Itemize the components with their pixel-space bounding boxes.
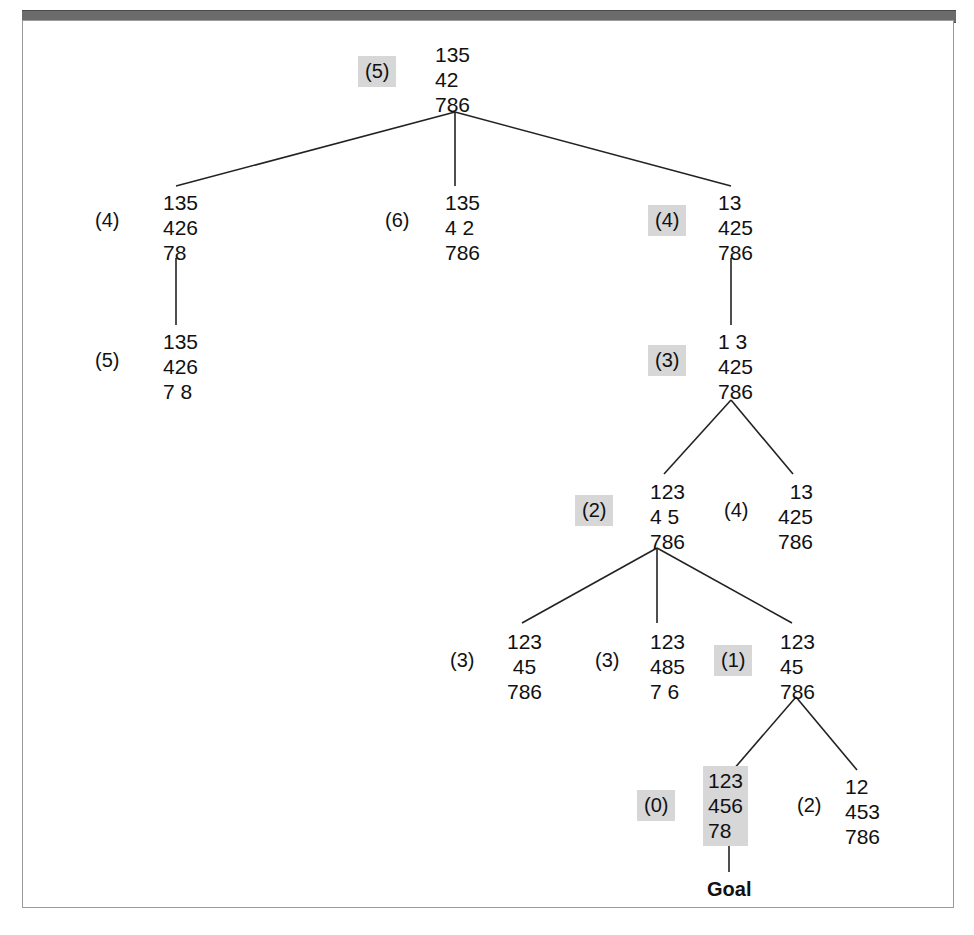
- node-cost-n8: (3): [443, 645, 481, 676]
- node-board-n12: 12453786: [840, 772, 885, 852]
- puzzle-board: 1354267 8: [158, 327, 203, 407]
- puzzle-board: 1234857 6: [645, 627, 690, 707]
- puzzle-row: 7 8: [163, 379, 198, 404]
- puzzle-board: 123 45786: [502, 627, 547, 707]
- puzzle-board: 13542786: [430, 40, 475, 120]
- node-board-n0: 13542786: [430, 40, 475, 120]
- node-cost-n10: (1): [714, 645, 752, 676]
- puzzle-row: 123: [650, 629, 685, 654]
- cost-label: (0): [637, 790, 675, 821]
- node-board-n1: 13542678: [158, 188, 203, 268]
- puzzle-board: 12453786: [840, 772, 885, 852]
- cost-label: (6): [378, 205, 416, 236]
- cost-label: (5): [88, 345, 126, 376]
- puzzle-row: 786: [507, 679, 542, 704]
- node-board-n6: 1234 5786: [645, 477, 690, 557]
- puzzle-row: 786: [650, 529, 685, 554]
- node-cost-n2: (6): [378, 205, 416, 236]
- puzzle-row: 123: [780, 629, 815, 654]
- puzzle-row: 425: [778, 504, 813, 529]
- puzzle-row: 786: [445, 240, 480, 265]
- puzzle-row: 135: [445, 190, 480, 215]
- cost-label: (4): [717, 495, 755, 526]
- puzzle-row: 123: [650, 479, 685, 504]
- puzzle-board: 13542678: [158, 188, 203, 268]
- tree-nodes-layer: (5)13542786(4)13542678(6)1354 2786(4)134…: [0, 0, 974, 935]
- node-cost-n12: (2): [790, 790, 828, 821]
- puzzle-row: 426: [163, 215, 198, 240]
- node-cost-n6: (2): [575, 495, 613, 526]
- cost-label: (1): [714, 645, 752, 676]
- puzzle-row: 13: [778, 479, 813, 504]
- puzzle-row: 42: [435, 67, 470, 92]
- puzzle-row: 425: [718, 354, 753, 379]
- node-board-n5: 1 3425786: [713, 327, 758, 407]
- node-board-n11: 12345678: [703, 766, 748, 846]
- puzzle-row: 4 5: [650, 504, 685, 529]
- cost-label: (3): [648, 345, 686, 376]
- puzzle-row: 12: [845, 774, 880, 799]
- node-board-n2: 1354 2786: [440, 188, 485, 268]
- cost-label: (2): [790, 790, 828, 821]
- puzzle-row: 786: [718, 240, 753, 265]
- puzzle-row: 786: [780, 679, 815, 704]
- puzzle-board: 1354 2786: [440, 188, 485, 268]
- node-board-n7: 13425786: [773, 477, 818, 557]
- puzzle-row: 425: [718, 215, 753, 240]
- node-cost-n7: (4): [717, 495, 755, 526]
- figure-page: (5)13542786(4)13542678(6)1354 2786(4)134…: [0, 0, 974, 935]
- cost-label: (4): [88, 205, 126, 236]
- cost-label: (3): [588, 645, 626, 676]
- cost-label: (3): [443, 645, 481, 676]
- node-board-n3: 13425786: [713, 188, 758, 268]
- node-cost-n3: (4): [648, 205, 686, 236]
- puzzle-board: 12345786: [775, 627, 820, 707]
- puzzle-board: 12345678: [703, 766, 748, 846]
- puzzle-row: 123: [507, 629, 542, 654]
- puzzle-row: 45: [507, 654, 542, 679]
- cost-label: (2): [575, 495, 613, 526]
- puzzle-row: 453: [845, 799, 880, 824]
- node-cost-n1: (4): [88, 205, 126, 236]
- puzzle-row: 786: [435, 92, 470, 117]
- node-cost-n11: (0): [637, 790, 675, 821]
- goal-label: Goal: [707, 878, 751, 901]
- puzzle-board: 13425786: [773, 477, 818, 557]
- node-cost-n4: (5): [88, 345, 126, 376]
- puzzle-board: 13425786: [713, 188, 758, 268]
- node-board-n10: 12345786: [775, 627, 820, 707]
- puzzle-row: 45: [780, 654, 815, 679]
- puzzle-row: 485: [650, 654, 685, 679]
- puzzle-board: 1234 5786: [645, 477, 690, 557]
- puzzle-row: 135: [435, 42, 470, 67]
- puzzle-row: 123: [708, 768, 743, 793]
- puzzle-row: 786: [718, 379, 753, 404]
- puzzle-row: 13: [718, 190, 753, 215]
- puzzle-row: 1 3: [718, 329, 753, 354]
- puzzle-row: 786: [778, 529, 813, 554]
- puzzle-row: 786: [845, 824, 880, 849]
- puzzle-row: 7 6: [650, 679, 685, 704]
- node-cost-n5: (3): [648, 345, 686, 376]
- puzzle-row: 135: [163, 190, 198, 215]
- puzzle-board: 1 3425786: [713, 327, 758, 407]
- puzzle-row: 4 2: [445, 215, 480, 240]
- puzzle-row: 456: [708, 793, 743, 818]
- node-cost-n0: (5): [358, 56, 396, 87]
- cost-label: (5): [358, 56, 396, 87]
- node-board-n9: 1234857 6: [645, 627, 690, 707]
- puzzle-row: 78: [708, 818, 743, 843]
- cost-label: (4): [648, 205, 686, 236]
- puzzle-row: 78: [163, 240, 198, 265]
- node-board-n4: 1354267 8: [158, 327, 203, 407]
- node-board-n8: 123 45786: [502, 627, 547, 707]
- node-cost-n9: (3): [588, 645, 626, 676]
- puzzle-row: 135: [163, 329, 198, 354]
- puzzle-row: 426: [163, 354, 198, 379]
